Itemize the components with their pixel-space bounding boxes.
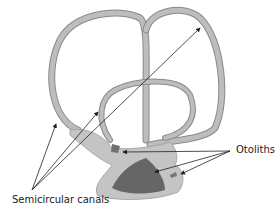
inner-ear-illustration — [0, 0, 278, 216]
semicircular-canals — [52, 10, 222, 145]
semicircular-canals-label: Semicircular canals — [12, 194, 109, 205]
inner-ear-diagram: Semicircular canals Otoliths — [0, 0, 278, 216]
otoliths-label: Otoliths — [236, 144, 275, 155]
